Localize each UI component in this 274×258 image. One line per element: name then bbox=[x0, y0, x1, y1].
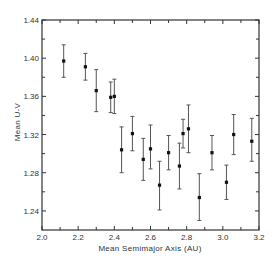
data-point bbox=[224, 165, 228, 199]
data-point bbox=[250, 118, 254, 161]
x-tick-label: 2.8 bbox=[181, 233, 193, 242]
y-tick-label: 1.40 bbox=[23, 54, 39, 63]
y-tick-label: 1.28 bbox=[23, 169, 39, 178]
data-point bbox=[120, 127, 124, 173]
data-point bbox=[83, 53, 87, 80]
data-point bbox=[232, 115, 236, 155]
data-point bbox=[177, 143, 181, 189]
data-point bbox=[149, 125, 153, 169]
y-tick-label: 1.44 bbox=[23, 16, 39, 25]
data-point bbox=[94, 70, 98, 112]
data-point bbox=[197, 174, 201, 221]
y-tick-label: 1.36 bbox=[23, 92, 39, 101]
x-tick-label: 2.6 bbox=[145, 233, 157, 242]
data-point bbox=[181, 119, 185, 148]
y-tick-label: 1.32 bbox=[23, 131, 39, 140]
x-tick-label: 2.2 bbox=[73, 233, 85, 242]
x-tick-label: 3.0 bbox=[217, 233, 229, 242]
x-tick-label: 2.0 bbox=[36, 233, 48, 242]
x-tick-label: 3.2 bbox=[253, 233, 265, 242]
data-point bbox=[186, 105, 190, 153]
x-axis-title: Mean Semimajor Axis (AU) bbox=[98, 244, 201, 253]
y-tick-label: 1.24 bbox=[23, 207, 39, 216]
data-point bbox=[141, 138, 145, 180]
data-point bbox=[130, 116, 134, 150]
data-point bbox=[109, 82, 113, 113]
y-axis: 1.241.281.321.361.401.44 bbox=[23, 16, 259, 216]
chart: 2.02.22.42.62.83.03.2 1.241.281.321.361.… bbox=[0, 0, 274, 258]
data-point bbox=[210, 136, 214, 170]
x-tick-label: 2.4 bbox=[109, 233, 121, 242]
data-point bbox=[167, 136, 171, 170]
y-axis-title: Mean U-V bbox=[13, 102, 22, 141]
data-point bbox=[158, 161, 162, 210]
data-point bbox=[62, 45, 66, 77]
data-points bbox=[62, 45, 254, 221]
data-point bbox=[112, 79, 116, 113]
